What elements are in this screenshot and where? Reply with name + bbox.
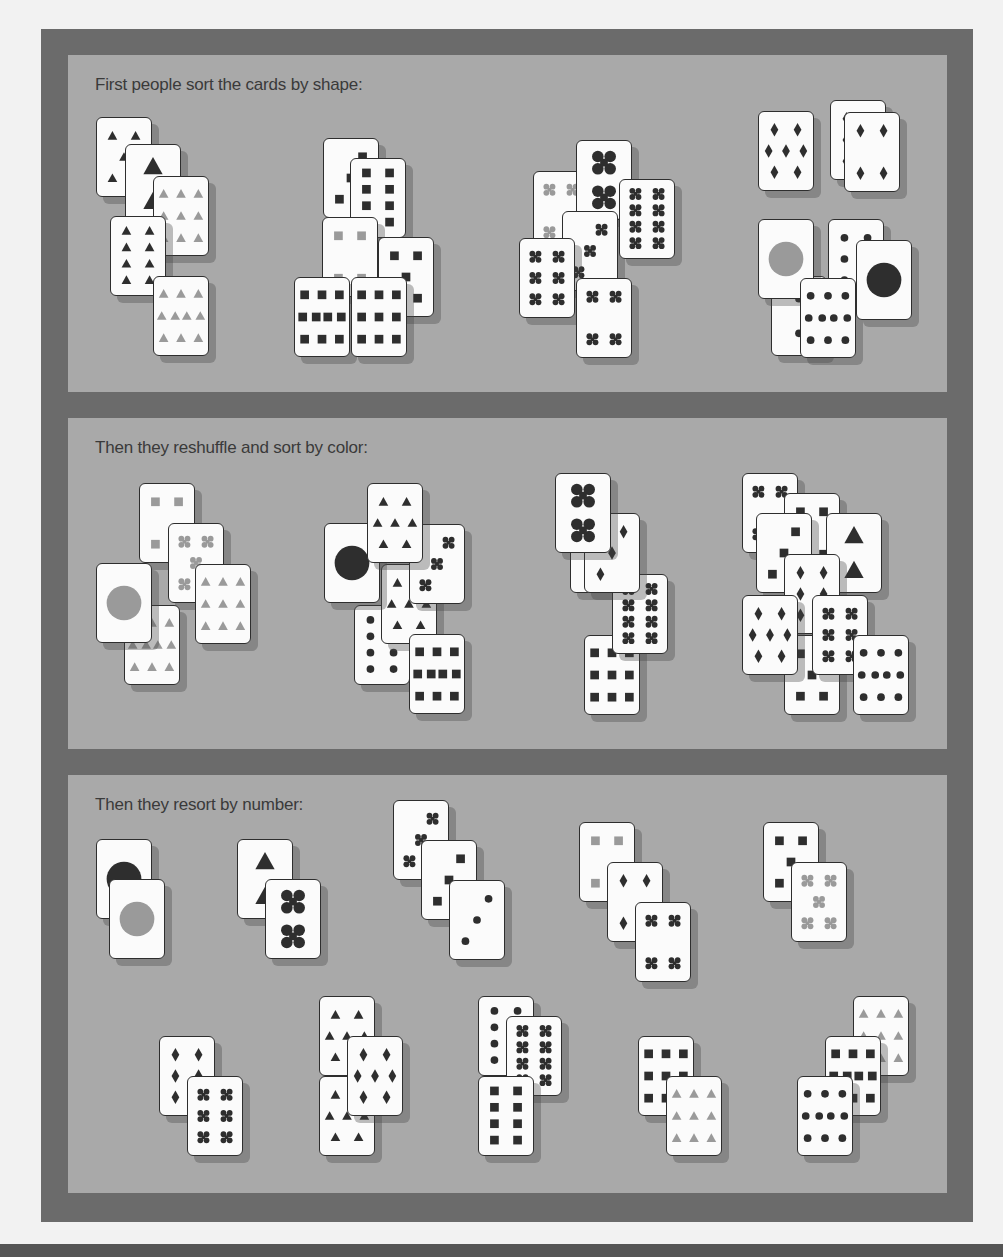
card-9-dark-square (351, 277, 407, 357)
triangle-pip-icon (196, 565, 250, 643)
circle-pip-icon (801, 279, 855, 357)
panel-sort-by-shape: First people sort the cards by shape: (68, 55, 947, 392)
card-3-dark-circle (449, 880, 505, 960)
card-10-dark-circle (853, 635, 909, 715)
page-bottom-rule (0, 1244, 1003, 1257)
card-1-dark-circle (856, 240, 912, 320)
card-5-light-cross (791, 862, 847, 942)
card-7-dark-diamond (347, 1036, 403, 1116)
card-8-dark-square (478, 1076, 534, 1156)
panel-title: First people sort the cards by shape: (95, 75, 363, 95)
card-4-dark-diamond (844, 112, 900, 192)
diamond-pip-icon (743, 596, 797, 674)
card-9-light-triangle (195, 564, 251, 644)
cross-pip-icon (556, 474, 610, 552)
cross-pip-icon (188, 1077, 242, 1155)
square-pip-icon (479, 1077, 533, 1155)
diamond-pip-icon (845, 113, 899, 191)
card-4-dark-cross (576, 278, 632, 358)
card-7-dark-triangle (367, 483, 423, 563)
circle-pip-icon (854, 636, 908, 714)
cross-pip-icon (266, 880, 320, 958)
card-9-light-triangle (666, 1076, 722, 1156)
diamond-pip-icon (759, 112, 813, 190)
panel-title: Then they reshuffle and sort by color: (95, 438, 368, 458)
card-10-dark-square (294, 277, 350, 357)
panel-sort-by-color: Then they reshuffle and sort by color: (68, 418, 947, 749)
square-pip-icon (352, 278, 406, 356)
cross-pip-icon (636, 903, 690, 981)
card-7-dark-diamond (758, 111, 814, 191)
card-2-dark-cross (555, 473, 611, 553)
card-10-dark-square (409, 634, 465, 714)
card-8-dark-cross (619, 179, 675, 259)
card-10-dark-circle (797, 1076, 853, 1156)
cross-pip-icon (620, 180, 674, 258)
card-6-dark-cross (187, 1076, 243, 1156)
triangle-pip-icon (667, 1077, 721, 1155)
circle-pip-icon (97, 564, 151, 642)
card-10-light-triangle (153, 276, 209, 356)
card-1-light-circle (109, 879, 165, 959)
square-pip-icon (295, 278, 349, 356)
card-4-dark-cross (635, 902, 691, 982)
card-7-dark-diamond (742, 595, 798, 675)
card-10-dark-circle (800, 278, 856, 358)
triangle-pip-icon (368, 484, 422, 562)
cross-pip-icon (520, 239, 574, 317)
circle-pip-icon (110, 880, 164, 958)
card-2-dark-cross (265, 879, 321, 959)
triangle-pip-icon (154, 277, 208, 355)
circle-pip-icon (450, 881, 504, 959)
diamond-pip-icon (348, 1037, 402, 1115)
panel-title: Then they resort by number: (95, 795, 303, 815)
cross-pip-icon (792, 863, 846, 941)
card-6-dark-cross (519, 238, 575, 318)
circle-pip-icon (798, 1077, 852, 1155)
circle-pip-icon (857, 241, 911, 319)
card-1-light-circle (96, 563, 152, 643)
square-pip-icon (410, 635, 464, 713)
panel-sort-by-number: Then they resort by number: (68, 775, 947, 1193)
cross-pip-icon (577, 279, 631, 357)
